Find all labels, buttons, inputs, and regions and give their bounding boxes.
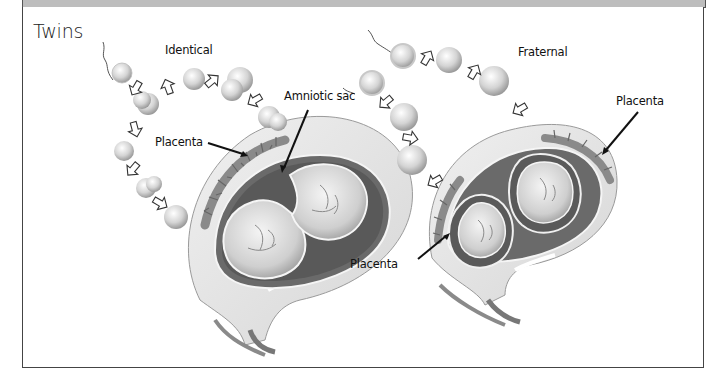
figure-title: Twins — [33, 20, 83, 42]
fraternal-placenta-label-right: Placenta — [616, 94, 664, 108]
fraternal-uterus — [429, 124, 617, 325]
identical-heading: Identical — [165, 43, 213, 57]
fraternal-heading: Fraternal — [518, 45, 567, 59]
twins-illustration — [0, 0, 726, 370]
identical-placenta-label: Placenta — [155, 135, 203, 149]
fraternal-placenta-label-left: Placenta — [350, 257, 398, 271]
amniotic-sac-label: Amniotic sac — [284, 89, 355, 103]
identical-uterus — [188, 116, 412, 355]
